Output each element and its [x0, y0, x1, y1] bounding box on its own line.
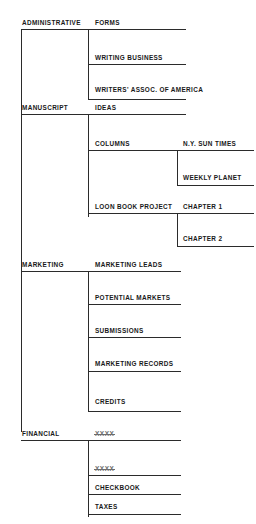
rule-loon-book-chapter-1 [88, 213, 254, 214]
spine-line-level1 [21, 29, 22, 432]
category-label-financial: FINANCIAL [22, 430, 60, 438]
subitem-label-forms: FORMS [95, 19, 120, 27]
subitem-label-ideas: IDEAS [95, 104, 116, 112]
subitem-label-struck-1: XXXX [95, 430, 114, 438]
rule-potential-markets [88, 304, 181, 305]
category-label-administrative: ADMINISTRATIVE [22, 19, 81, 27]
rule-writers-assoc [88, 99, 186, 100]
rule-marketing-leads [21, 271, 181, 272]
spine-line-loon-book [177, 213, 178, 246]
filing-system-chart: ADMINISTRATIVE MANUSCRIPT MARKETING FINA… [0, 0, 256, 524]
rule-submissions [88, 337, 181, 338]
rule-struck-2 [88, 475, 181, 476]
subitem-label-credits: CREDITS [95, 398, 126, 406]
rule-manuscript-ideas [21, 114, 186, 115]
detail-label-chapter-1: CHAPTER 1 [183, 203, 222, 211]
subitem-label-checkbook: CHECKBOOK [95, 484, 140, 492]
rule-columns [88, 150, 254, 151]
rule-weekly-planet [177, 185, 254, 186]
subitem-label-submissions: SUBMISSIONS [95, 327, 144, 335]
subitem-label-columns: COLUMNS [95, 140, 130, 148]
subitem-label-potential-markets: POTENTIAL MARKETS [95, 294, 170, 302]
spine-line-financial [88, 440, 89, 517]
subitem-label-writers-assoc: WRITERS' ASSOC. OF AMERICA [95, 86, 203, 94]
category-label-manuscript: MANUSCRIPT [22, 104, 68, 112]
rule-taxes [88, 514, 181, 515]
subitem-label-writing-business: WRITING BUSINESS [95, 54, 163, 62]
rule-administrative-forms [21, 29, 186, 30]
rule-writing-business [88, 64, 186, 65]
subitem-label-loon-book-project: LOON BOOK PROJECT [95, 203, 172, 211]
detail-label-weekly-planet: WEEKLY PLANET [183, 174, 242, 182]
subitem-label-taxes: TAXES [95, 503, 118, 511]
rule-checkbook [88, 494, 181, 495]
rule-financial-struck-1 [21, 440, 181, 441]
subitem-label-marketing-leads: MARKETING LEADS [95, 261, 162, 269]
category-label-marketing: MARKETING [22, 261, 64, 269]
detail-label-ny-sun-times: N.Y. SUN TIMES [183, 140, 236, 148]
spine-line-marketing [88, 271, 89, 411]
rule-credits [88, 411, 181, 412]
subitem-label-marketing-records: MARKETING RECORDS [95, 360, 173, 368]
spine-line-manuscript [88, 114, 89, 217]
rule-chapter-2 [177, 246, 254, 247]
detail-label-chapter-2: CHAPTER 2 [183, 235, 222, 243]
spine-line-columns [177, 150, 178, 185]
subitem-label-struck-2: XXXX [95, 465, 114, 473]
rule-marketing-records [88, 371, 181, 372]
